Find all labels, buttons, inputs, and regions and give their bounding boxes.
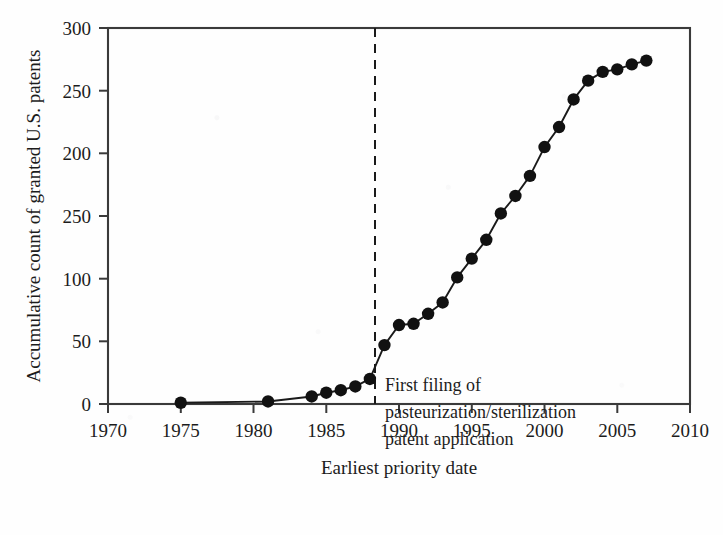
- data-point: [509, 190, 521, 202]
- data-point: [582, 74, 594, 86]
- x-tick-label-1980: 1980: [235, 420, 273, 441]
- x-tick-label-1985: 1985: [307, 420, 345, 441]
- data-point: [538, 141, 550, 153]
- plot-border: [108, 28, 690, 404]
- y-axis-tick-labels: 0 50 100 250 200 250 300: [63, 18, 92, 415]
- data-point: [495, 207, 507, 219]
- chart-page: 0 50 100 250 200 250 300 1970 1975 1980 …: [0, 0, 723, 535]
- x-axis-title: Earliest priority date: [321, 457, 477, 478]
- data-point: [320, 387, 332, 399]
- data-point: [553, 121, 565, 133]
- data-point: [436, 296, 448, 308]
- data-point: [306, 390, 318, 402]
- y-tick-label-250: 250: [63, 81, 92, 102]
- data-point: [393, 319, 405, 331]
- y-axis-title: Accumulative count of granted U.S. paten…: [23, 50, 44, 383]
- data-point: [378, 339, 390, 351]
- series-markers: [175, 54, 653, 409]
- annotation-line-1: First filing of: [385, 375, 481, 395]
- data-point: [597, 66, 609, 78]
- x-tick-label-2000: 2000: [526, 420, 564, 441]
- data-point: [524, 170, 536, 182]
- y-tick-label-50: 50: [72, 331, 91, 352]
- x-tick-label-2005: 2005: [598, 420, 636, 441]
- data-point: [640, 54, 652, 66]
- data-point: [407, 318, 419, 330]
- data-point: [335, 384, 347, 396]
- x-tick-label-1970: 1970: [89, 420, 127, 441]
- y-tick-label-150: 250: [63, 206, 92, 227]
- data-point: [422, 308, 434, 320]
- y-axis-ticks: [99, 28, 108, 404]
- y-tick-label-100: 100: [63, 269, 92, 290]
- y-tick-label-300: 300: [63, 18, 92, 39]
- x-tick-label-2010: 2010: [671, 420, 709, 441]
- data-point: [466, 252, 478, 264]
- y-tick-label-200: 200: [63, 143, 92, 164]
- plot-frame: [108, 28, 690, 404]
- data-point: [480, 234, 492, 246]
- annotation-line-2: pasteurization/sterilization: [385, 402, 576, 422]
- series-line: [181, 61, 647, 403]
- data-point: [611, 63, 623, 75]
- x-tick-label-1975: 1975: [162, 420, 200, 441]
- patent-growth-line-chart: 0 50 100 250 200 250 300 1970 1975 1980 …: [0, 0, 723, 535]
- data-point: [175, 397, 187, 409]
- data-point: [364, 373, 376, 385]
- data-point: [262, 395, 274, 407]
- data-point: [451, 271, 463, 283]
- data-point: [567, 93, 579, 105]
- y-tick-label-0: 0: [82, 394, 92, 415]
- data-point: [349, 380, 361, 392]
- data-point: [626, 58, 638, 70]
- annotation-line-3: patent application: [385, 429, 513, 449]
